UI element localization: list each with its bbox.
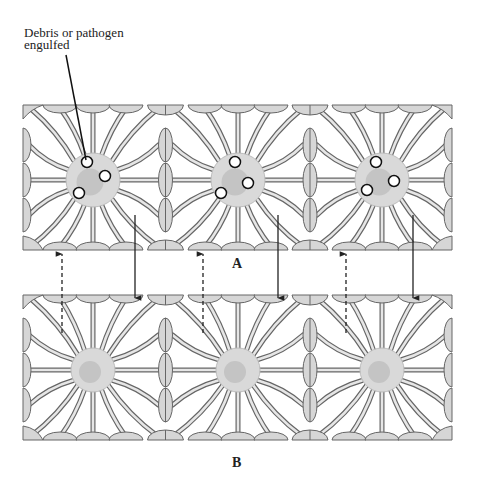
- engulfed-particle: [371, 157, 382, 168]
- engulfed-particle: [82, 157, 93, 168]
- engulfed-particle: [362, 185, 373, 196]
- engulfed-particle: [216, 188, 227, 199]
- callout-line-2: engulfed: [24, 39, 124, 51]
- nucleus: [224, 361, 246, 383]
- nucleus: [79, 361, 101, 383]
- panel-label-a: A: [232, 256, 242, 272]
- glial-cell-diagram: [0, 0, 477, 496]
- panel-label-b: B: [232, 455, 241, 471]
- nucleus: [368, 361, 390, 383]
- engulfed-particle: [230, 157, 241, 168]
- engulfed-particle: [389, 176, 400, 187]
- engulfed-particle: [243, 178, 254, 189]
- callout-label: Debris or pathogen engulfed: [24, 27, 124, 51]
- engulfed-particle: [100, 171, 111, 182]
- engulfed-particle: [74, 188, 85, 199]
